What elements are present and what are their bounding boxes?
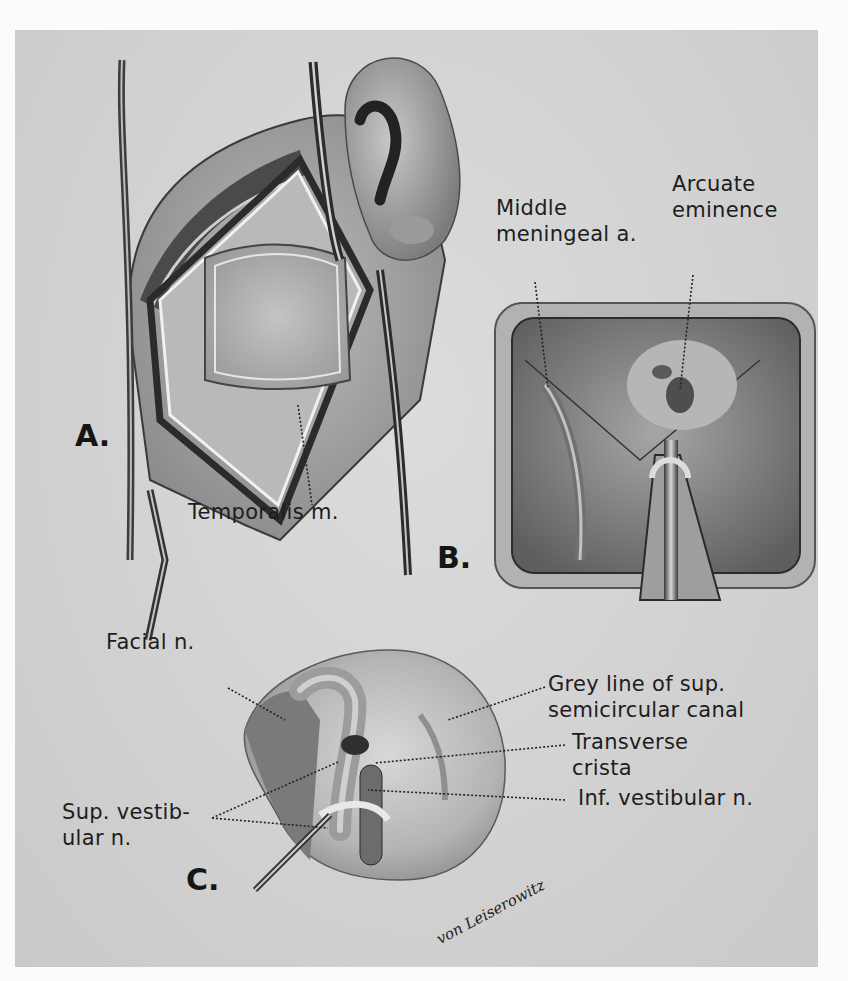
label-transverse-crista-1: Transverse	[572, 730, 688, 754]
panel-c-letter: C.	[186, 862, 219, 897]
label-transverse-crista-2: crista	[572, 756, 632, 780]
label-inf-vestibular: Inf. vestibular n.	[578, 786, 753, 810]
label-middle-meningeal-line2: meningeal a.	[496, 222, 637, 246]
panel-a-letter: A.	[75, 418, 110, 453]
label-arcuate-line2: eminence	[672, 198, 778, 222]
label-temporalis: Temporalis m.	[188, 500, 339, 524]
panel-b-artwork	[495, 275, 815, 600]
panel-b-letter: B.	[437, 540, 471, 575]
panel-c-artwork	[212, 650, 565, 890]
label-sup-vestibular-1: Sup. vestib-	[62, 800, 190, 824]
label-arcuate-line1: Arcuate	[672, 172, 756, 196]
label-grey-line-1: Grey line of sup.	[548, 672, 725, 696]
label-middle-meningeal-line1: Middle	[496, 196, 567, 220]
label-facial-nerve: Facial n.	[106, 630, 194, 654]
panel-a-artwork	[121, 58, 459, 640]
label-sup-vestibular-2: ular n.	[62, 826, 131, 850]
label-grey-line-2: semicircular canal	[548, 698, 744, 722]
